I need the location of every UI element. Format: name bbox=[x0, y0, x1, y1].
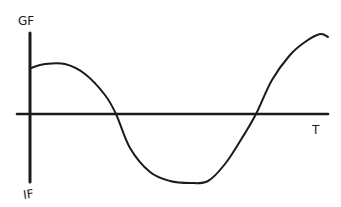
wave-curve bbox=[31, 34, 328, 183]
label-if: IF bbox=[22, 187, 34, 202]
label-gf: GF bbox=[18, 14, 34, 28]
label-t: T bbox=[311, 123, 320, 137]
sketch-diagram: GF IF T bbox=[0, 0, 341, 207]
